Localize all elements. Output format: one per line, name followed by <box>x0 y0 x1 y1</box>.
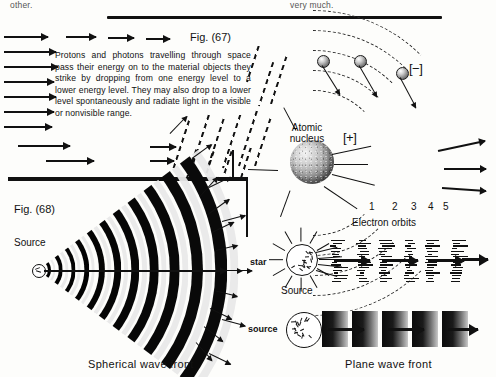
plane-wave-lower-arrow-3 <box>448 328 478 331</box>
plane-wave-lower-arrow-2 <box>388 328 424 331</box>
physics-diagram-page: { "page": { "running_text_left": "other.… <box>0 0 496 377</box>
plane-wave-caption: Plane wave front <box>345 358 432 370</box>
plane-wave-lower-arrow-1 <box>328 328 364 331</box>
plane-wave-lower-row <box>0 0 496 377</box>
